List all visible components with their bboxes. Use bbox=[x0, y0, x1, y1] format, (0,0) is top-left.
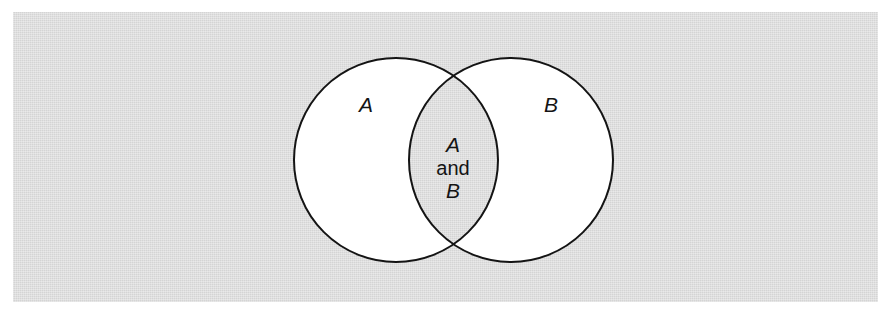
intersection-label-line-and: and bbox=[436, 157, 469, 179]
venn-diagram-svg: A B A and B bbox=[0, 0, 895, 320]
set-a-label: A bbox=[357, 93, 373, 116]
intersection-label-line-b: B bbox=[446, 179, 460, 202]
intersection-label-line-a: A bbox=[444, 133, 460, 156]
figure-root: A B A and B bbox=[0, 0, 895, 320]
set-b-label: B bbox=[544, 93, 558, 116]
